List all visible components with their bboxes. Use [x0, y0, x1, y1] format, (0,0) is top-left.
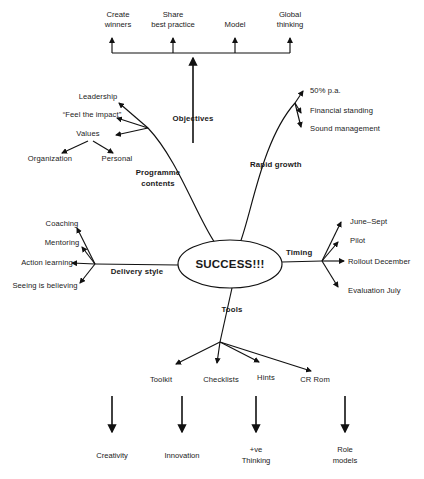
node-seeing-is-believing: Seeing is believing — [12, 281, 77, 290]
mind-map-svg: Create winners Share best practice Model… — [0, 0, 424, 479]
objective-create-winners-line1: Create — [106, 10, 129, 19]
tools-main-line — [220, 288, 232, 342]
branch-label-programme-contents-line2: contents — [141, 179, 175, 188]
node-personal: Personal — [102, 154, 133, 163]
node-cr-rom: CR Rom — [300, 375, 330, 384]
outcomes-group: Creativity Innovation +ve Thinking Role … — [96, 396, 357, 465]
objectives-labels: Create winners Share best practice Model… — [104, 10, 304, 123]
branch-label-objectives: Objectives — [173, 114, 214, 123]
node-june-sept: June–Sept — [350, 217, 388, 226]
outcome-positive-thinking-line2: Thinking — [242, 456, 271, 465]
node-values: Values — [76, 129, 99, 138]
objective-share-best-practice-line1: Share — [163, 10, 184, 19]
outcome-positive-thinking-line1: +ve — [250, 445, 262, 454]
node-coaching: Coaching — [46, 219, 79, 228]
node-feel-the-impact: “Feel the impact” — [63, 110, 122, 119]
branch-label-rapid-growth: Rapid growth — [250, 160, 302, 169]
edge-mentoring — [82, 247, 95, 264]
objective-share-best-practice-line2: best practice — [151, 20, 195, 29]
central-node-label: SUCCESS!!! — [195, 258, 264, 270]
central-node-group[interactable]: SUCCESS!!! — [178, 240, 282, 288]
edge-toolkit — [176, 342, 220, 364]
rapid-growth-main-curve — [240, 103, 295, 243]
node-hints: Hints — [257, 373, 275, 382]
tools-group: Tools Toolkit Checklists Hints CR Rom — [150, 288, 330, 384]
edge-feel-the-impact — [117, 118, 148, 128]
node-financial-standing: Financial standing — [310, 106, 373, 115]
node-mentoring: Mentoring — [45, 238, 80, 247]
delivery-style-group: Coaching Mentoring Action learning Seein… — [12, 219, 178, 290]
node-sound-management: Sound management — [310, 124, 381, 133]
node-rollout-december: Rollout December — [348, 257, 411, 266]
node-organization: Organization — [28, 154, 72, 163]
edge-coaching — [77, 228, 95, 264]
node-toolkit: Toolkit — [150, 375, 173, 384]
edge-50-percent-pa — [295, 91, 303, 103]
edge-sound-management — [295, 103, 301, 127]
node-leadership: Leadership — [79, 92, 118, 101]
objective-global-thinking-line1: Global — [279, 10, 302, 19]
branch-label-programme-contents-line1: Programme — [136, 168, 181, 177]
objectives-connector-group — [112, 38, 290, 143]
branch-label-tools: Tools — [222, 305, 243, 314]
node-pilot: Pilot — [350, 236, 366, 245]
outcome-role-models-line2: models — [333, 456, 358, 465]
outcome-creativity: Creativity — [96, 451, 128, 460]
branch-label-delivery-style: Delivery style — [111, 267, 164, 276]
delivery-style-main-line — [95, 264, 178, 265]
branch-label-timing: Timing — [286, 248, 312, 257]
edge-leadership — [119, 103, 148, 128]
node-50-percent-pa: 50% p.a. — [310, 86, 341, 95]
edge-checklists — [217, 342, 220, 363]
objective-create-winners-line2: winners — [104, 20, 132, 29]
outcome-role-models-line1: Role — [337, 445, 353, 454]
node-checklists: Checklists — [203, 375, 239, 384]
edge-june-sept — [322, 222, 341, 261]
edge-cr-rom — [220, 342, 311, 371]
edge-action-learning — [72, 263, 95, 264]
timing-main-line — [282, 261, 322, 262]
edge-evaluation-july — [322, 261, 338, 287]
outcome-innovation: Innovation — [164, 451, 199, 460]
edge-seeing-is-believing — [80, 264, 95, 283]
edge-values-organization — [62, 141, 88, 153]
mind-map-canvas: Create winners Share best practice Model… — [0, 0, 424, 479]
objective-model: Model — [225, 20, 246, 29]
node-action-learning: Action learning — [21, 258, 73, 267]
objective-global-thinking-line2: thinking — [277, 20, 304, 29]
timing-group: June–Sept Pilot Rollout December Evaluat… — [282, 217, 411, 295]
edge-values-personal — [93, 141, 113, 153]
edge-values — [116, 128, 148, 135]
node-evaluation-july: Evaluation July — [348, 286, 401, 295]
